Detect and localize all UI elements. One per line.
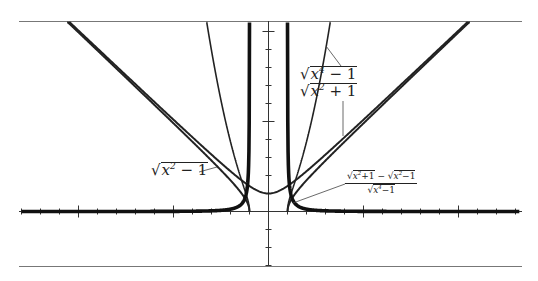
label-fraction: √x2+1 − √x2−1 √x4−1 <box>345 170 417 196</box>
radical-sign: √ <box>300 65 310 83</box>
label-sqrt-x2-minus-1: √x2 − 1 <box>151 162 208 178</box>
rest: − 1 <box>176 161 208 179</box>
rest: +1 <box>361 171 374 181</box>
minus-sign: − <box>377 171 385 181</box>
var: x <box>311 82 319 100</box>
function-plot <box>0 0 538 281</box>
radicand: x4 − 1 <box>310 66 358 82</box>
rest: + 1 <box>325 82 357 100</box>
radicand: x2 − 1 <box>161 162 209 178</box>
curve-sqrt-x4-minus-1-right <box>288 23 331 212</box>
radicand: x4−1 <box>373 184 395 196</box>
label-sqrt-x2-plus-1: √x2 + 1 <box>300 83 357 99</box>
var: x <box>311 65 319 83</box>
label-sqrt-x4-minus-1: √x4 − 1 <box>300 66 357 82</box>
radical-sign: √ <box>151 161 161 179</box>
fraction-numerator: √x2+1 − √x2−1 <box>345 170 417 184</box>
rest: −1 <box>402 171 415 181</box>
radicand: x2−1 <box>394 170 416 182</box>
curve-sqrt-x4-minus-1-left <box>206 23 249 212</box>
rest: −1 <box>382 185 395 195</box>
fraction-denominator: √x4−1 <box>345 184 417 196</box>
rest: − 1 <box>325 65 357 83</box>
radicand: x2 + 1 <box>310 83 358 99</box>
var: x <box>162 161 170 179</box>
leader-sqrt-x4-minus-1 <box>326 46 341 66</box>
curve-sqrt-x2-minus-1-left <box>67 23 249 212</box>
curve-fraction-left <box>22 23 250 212</box>
radical-sign: √ <box>300 82 310 100</box>
radicand: x2+1 <box>353 170 375 182</box>
